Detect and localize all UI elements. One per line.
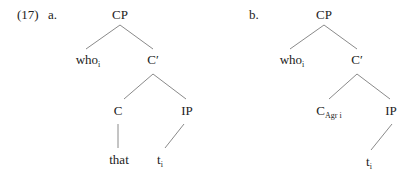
tree-b-c-agr-node: CAgr i xyxy=(316,104,341,118)
tree-b-trace-leaf: ti xyxy=(366,155,372,169)
tree-a-cbar-node: C′ xyxy=(147,53,159,67)
tree-b-ip-node: IP xyxy=(385,104,397,118)
tree-b-spec-node: whoi xyxy=(280,53,305,67)
tree-a-cp-node: CP xyxy=(112,8,128,22)
example-number: (17) xyxy=(17,8,39,22)
tree-branches xyxy=(0,0,413,177)
tree-a-spec-node: whoi xyxy=(76,53,101,67)
tree-a-label: a. xyxy=(48,8,57,22)
tree-b-cp-node: CP xyxy=(316,8,332,22)
tree-b-label: b. xyxy=(249,8,259,22)
tree-b-cbar-node: C′ xyxy=(351,53,363,67)
tree-a-ip-node: IP xyxy=(181,104,193,118)
tree-a-c-node: C xyxy=(114,104,123,118)
tree-a-that-leaf: that xyxy=(109,153,129,167)
tree-a-trace-leaf: ti xyxy=(157,153,163,167)
